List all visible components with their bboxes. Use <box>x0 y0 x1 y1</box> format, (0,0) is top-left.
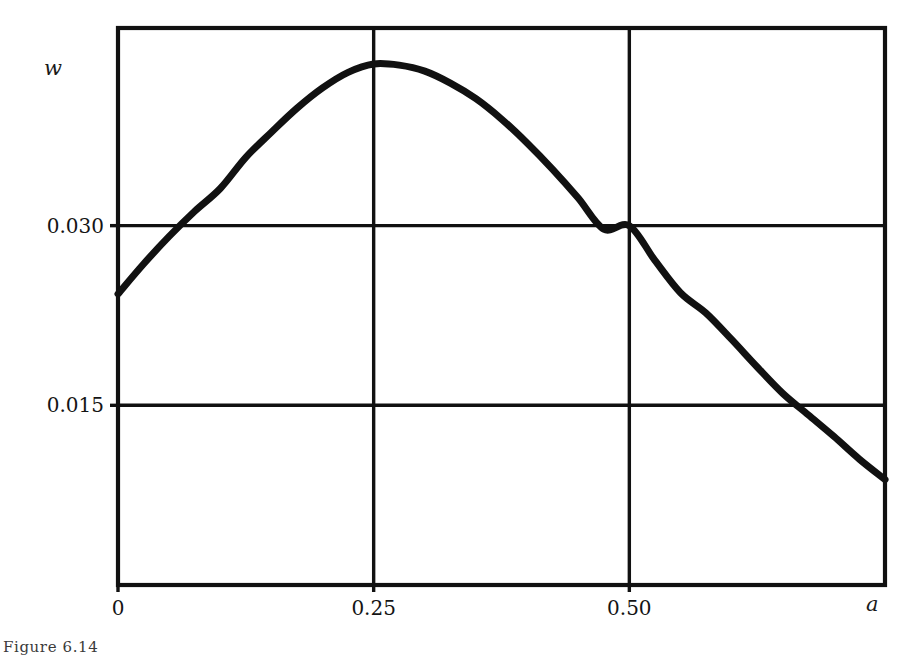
x-tick-label-slot: 0.50 <box>569 596 689 620</box>
data-curves <box>118 63 885 479</box>
chart-plot-area <box>0 0 909 655</box>
figure-container: w a 0.0150.030 00.250.50 Figure 6.14 <box>0 0 909 655</box>
data-curve <box>118 63 885 479</box>
y-tick-label-slot: 0.030 <box>0 213 104 239</box>
y-tick-label: 0.030 <box>47 213 104 239</box>
x-tick-label: 0 <box>112 596 125 620</box>
x-tick-label: 0.50 <box>607 596 652 620</box>
y-tick-label: 0.015 <box>47 392 104 418</box>
y-tick-label-slot: 0.015 <box>0 392 104 418</box>
figure-caption: Figure 6.14 <box>3 638 98 655</box>
x-tick-label: 0.25 <box>351 596 396 620</box>
x-tick-label-slot: 0.25 <box>314 596 434 620</box>
plot-border <box>118 28 885 585</box>
x-axis-label: a <box>866 592 879 616</box>
x-tick-label-slot: 0 <box>58 596 178 620</box>
y-axis-label: w <box>44 56 62 80</box>
gridlines <box>118 28 885 585</box>
